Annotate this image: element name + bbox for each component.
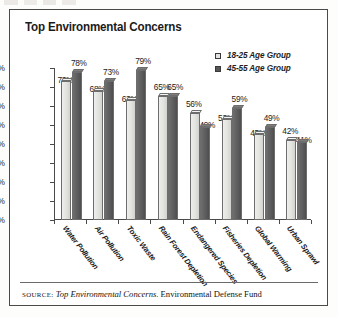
y-tick-label: 30%: [0, 158, 5, 168]
bar-45-55: [200, 124, 210, 220]
bar-45-55: [232, 105, 242, 220]
bar-face: [297, 142, 307, 220]
bar-18-25: [61, 78, 71, 220]
y-tick-label: 60%: [0, 101, 5, 111]
bar-face: [93, 91, 103, 220]
bar-face: [126, 100, 136, 220]
bar-groups: 73%78%68%73%63%79%65%65%56%49%53%59%45%4…: [54, 68, 311, 220]
page-top-artifact: [4, 0, 124, 5]
y-tick-label: 50%: [0, 120, 5, 130]
y-tick-label: 20%: [0, 177, 5, 187]
category-labels: Water PollutionAir PollutionToxic WasteR…: [54, 224, 311, 282]
bar-face: [61, 81, 71, 220]
bar-18-25: [222, 116, 232, 220]
y-tick-label: 10%: [0, 196, 5, 206]
chart-title: Top Environmental Concerns: [25, 20, 181, 34]
source-divider: [20, 282, 318, 283]
legend-label-18-25: 18-25 Age Group: [227, 51, 291, 60]
bar-45-55: [297, 139, 307, 220]
bar-18-25: [158, 93, 168, 220]
y-tick-label: 40%: [0, 139, 5, 149]
bar-group: [126, 68, 147, 220]
bar-group: [61, 68, 82, 220]
bar-18-25: [93, 88, 103, 220]
bar-18-25: [126, 97, 136, 220]
source-prefix: SOURCE:: [22, 291, 54, 298]
bar-18-25: [254, 131, 264, 220]
bar-group: [222, 68, 243, 220]
bar-face: [222, 119, 232, 220]
x-tick: [311, 220, 312, 224]
bar-group: [93, 68, 114, 220]
y-tick-label: 80%: [0, 63, 5, 73]
source-note: SOURCE: Top Environmental Concerns. Envi…: [22, 289, 317, 299]
bar-face: [72, 72, 82, 220]
source-work: Top Environmental Concerns: [54, 289, 157, 299]
figure-page: Top Environmental Concerns 18-25 Age Gro…: [0, 0, 338, 318]
bar-45-55: [104, 78, 114, 220]
plot-area: 0%10%20%30%40%50%60%70%80% 73%78%68%73%6…: [54, 68, 311, 220]
y-tick-label: 70%: [0, 82, 5, 92]
bar-face: [158, 96, 168, 220]
legend-item-18-25: 18-25 Age Group: [215, 50, 291, 61]
bar-45-55: [168, 93, 178, 220]
bar-value-label: 78%: [71, 58, 87, 68]
bar-45-55: [136, 67, 146, 220]
bar-45-55: [72, 69, 82, 220]
source-publisher: . Environmental Defense Fund: [156, 289, 262, 299]
category-label: Toxic Waste: [125, 224, 158, 262]
bar-group: [158, 68, 179, 220]
bar-group: [254, 68, 275, 220]
bar-face: [265, 127, 275, 220]
bar-value-label: 79%: [135, 56, 151, 66]
bar-face: [254, 134, 264, 220]
bar-group: [286, 68, 307, 220]
bar-face: [232, 108, 242, 220]
bar-face: [168, 96, 178, 220]
category-label: Air Pollution: [93, 224, 126, 263]
figure-frame: Top Environmental Concerns 18-25 Age Gro…: [9, 9, 328, 306]
bar-face: [200, 127, 210, 220]
bar-18-25: [286, 137, 296, 220]
bar-45-55: [265, 124, 275, 220]
bar-18-25: [190, 110, 200, 220]
bar-face: [104, 81, 114, 220]
category-label: Urban Sprawl: [285, 224, 321, 266]
light-square-icon: [215, 53, 221, 59]
bar-face: [286, 140, 296, 220]
bar-face: [136, 70, 146, 220]
bar-group: [190, 68, 211, 220]
y-tick-label: 0%: [0, 215, 5, 225]
bar-face: [190, 113, 200, 220]
